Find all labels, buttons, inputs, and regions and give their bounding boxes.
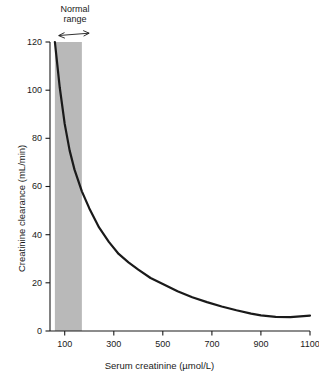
x-axis-title: Serum creatinine (µmol/L) <box>0 360 319 371</box>
normal-range-label: Normal range <box>52 4 98 24</box>
x-tick-label-900: 900 <box>246 339 276 349</box>
y-tick-label-120: 120 <box>18 37 42 47</box>
x-tick-label-100: 100 <box>50 339 80 349</box>
y-tick-label-80: 80 <box>18 133 42 143</box>
chart-figure: Normal range 120 100 80 60 40 20 0 100 3… <box>0 0 319 380</box>
y-axis-title: Creatinine clearance (mL/min) <box>16 145 27 272</box>
x-tick-label-1100: 1100 <box>295 339 319 349</box>
y-tick-label-0: 0 <box>18 326 42 336</box>
normal-range-arrow-icon <box>59 31 90 39</box>
x-axis-ticks <box>65 331 310 336</box>
creatinine-clearance-curve <box>55 42 310 317</box>
y-tick-label-100: 100 <box>18 85 42 95</box>
x-tick-label-700: 700 <box>197 339 227 349</box>
normal-range-label-line1: Normal <box>52 4 98 14</box>
x-tick-label-500: 500 <box>148 339 178 349</box>
y-axis-ticks <box>46 42 51 331</box>
creatinine-clearance-chart <box>0 0 319 380</box>
y-tick-label-20: 20 <box>18 278 42 288</box>
x-tick-label-300: 300 <box>99 339 129 349</box>
normal-range-label-line2: range <box>52 14 98 24</box>
